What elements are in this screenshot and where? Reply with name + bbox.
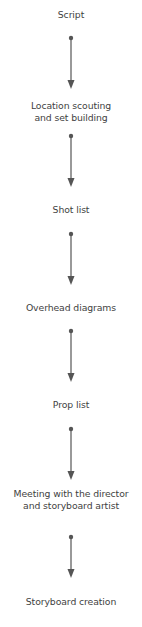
step-label: Overhead diagrams [0, 302, 142, 314]
arrow-down-icon [64, 328, 78, 384]
arrow-down-icon [64, 426, 78, 482]
step-prop-list: Prop list [0, 399, 142, 411]
arrow-down-icon [64, 534, 78, 580]
step-script: Script [0, 9, 142, 21]
step-overhead-diagrams: Overhead diagrams [0, 302, 142, 314]
step-director-meeting: Meeting with the director and storyboard… [0, 488, 142, 512]
step-label: Script [0, 9, 142, 21]
step-storyboard-creation: Storyboard creation [0, 596, 142, 608]
step-label: Location scouting [0, 100, 142, 112]
arrow-down-icon [64, 231, 78, 287]
arrow-down-icon [64, 133, 78, 189]
step-label: Storyboard creation [0, 596, 142, 608]
step-location-scouting: Location scouting and set building [0, 100, 142, 124]
step-label: and set building [0, 112, 142, 124]
arrow-down-icon [64, 35, 78, 91]
step-label: Meeting with the director [0, 488, 142, 500]
step-label: Shot list [0, 204, 142, 216]
step-label: and storyboard artist [0, 500, 142, 512]
step-shot-list: Shot list [0, 204, 142, 216]
step-label: Prop list [0, 399, 142, 411]
